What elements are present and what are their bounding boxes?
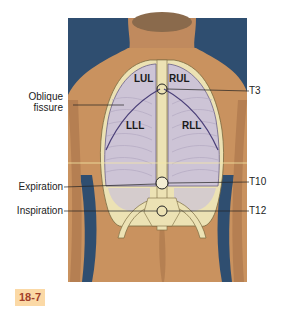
lobe-label-rll: RLL [182,120,201,131]
inspiration-label: Inspiration [5,205,63,216]
t10-marker [156,177,168,189]
oblique-label-line2: fissure [10,102,63,113]
posterior-thorax-figure: LUL RUL LLL RLL Oblique fissure Expirati… [0,0,282,316]
t12-label: T12 [249,205,266,216]
oblique-fissure-label: Oblique fissure [10,91,63,113]
t10-label: T10 [249,176,266,187]
lobe-label-lul: LUL [134,73,153,84]
t3-label: T3 [249,85,261,96]
lobe-label-lll: LLL [126,120,144,131]
expiration-label: Expiration [5,181,63,192]
oblique-label-line1: Oblique [10,91,63,102]
thorax-illustration [0,0,282,316]
figure-number-badge: 18-7 [15,289,45,306]
lobe-label-rul: RUL [169,73,190,84]
